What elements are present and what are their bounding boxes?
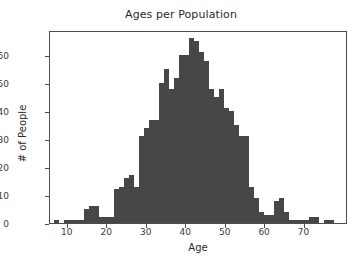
histogram-bar [314,217,319,223]
histogram-bars [50,32,346,223]
y-axis-label: # of People [17,89,28,179]
y-tick-label: 20 [0,163,9,173]
y-tick-label: 0 [0,219,9,229]
y-tick-label: 10 [0,191,9,201]
x-tick-mark [304,224,305,228]
x-tick-label: 10 [47,227,87,237]
chart-title: Ages per Population [0,8,362,21]
y-tick-label: 60 [0,51,9,61]
x-tick-mark [106,224,107,228]
x-axis-label: Age [49,242,347,253]
x-tick-label: 40 [165,227,205,237]
x-tick-label: 20 [86,227,126,237]
y-tick-label: 30 [0,135,9,145]
y-tick-mark [45,224,49,225]
x-tick-label: 70 [284,227,324,237]
plot-area [49,31,347,224]
x-tick-label: 50 [205,227,245,237]
x-tick-mark [264,224,265,228]
x-tick-mark [225,224,226,228]
x-tick-mark [185,224,186,228]
histogram-bar [54,220,59,223]
x-tick-label: 60 [244,227,284,237]
histogram-figure: Ages per Population # of People 01020304… [0,0,362,269]
histogram-bar [329,220,334,223]
x-tick-mark [67,224,68,228]
x-tick-mark [146,224,147,228]
y-tick-label: 40 [0,107,9,117]
y-tick-label: 50 [0,79,9,89]
x-tick-label: 30 [126,227,166,237]
